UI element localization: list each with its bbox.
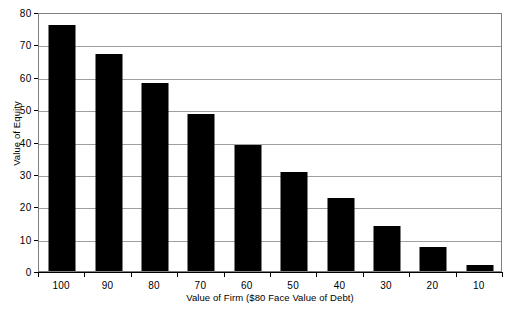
y-tick-label: 30 bbox=[20, 169, 32, 180]
x-tick-mark bbox=[224, 272, 225, 277]
x-tick-label: 80 bbox=[148, 280, 160, 291]
bar bbox=[95, 54, 122, 271]
x-tick-mark bbox=[363, 272, 364, 277]
x-tick-label: 60 bbox=[241, 280, 253, 291]
bar bbox=[49, 25, 76, 271]
y-tick-label: 10 bbox=[20, 234, 32, 245]
y-axis-tick-labels: 01020304050607080 bbox=[0, 0, 38, 315]
bar bbox=[327, 198, 354, 271]
x-tick-mark bbox=[84, 272, 85, 277]
x-axis-title: Value of Firm ($80 Face Value of Debt) bbox=[38, 292, 502, 303]
x-tick-mark bbox=[131, 272, 132, 277]
bar-chart: Value of Equity 01020304050607080 100908… bbox=[0, 0, 512, 315]
bar bbox=[281, 172, 308, 271]
bar bbox=[141, 83, 168, 271]
y-tick-label: 20 bbox=[20, 202, 32, 213]
y-tick-label: 40 bbox=[20, 137, 32, 148]
y-tick-label: 50 bbox=[20, 105, 32, 116]
x-tick-label: 90 bbox=[102, 280, 114, 291]
x-tick-label: 70 bbox=[195, 280, 207, 291]
x-tick-label: 100 bbox=[52, 280, 70, 291]
bar-slot bbox=[225, 14, 271, 271]
x-tick-label: 40 bbox=[334, 280, 346, 291]
bar-slot bbox=[457, 14, 503, 271]
x-tick-mark bbox=[38, 272, 39, 277]
x-tick-mark bbox=[270, 272, 271, 277]
y-tick-label: 80 bbox=[20, 8, 32, 19]
x-tick-mark bbox=[316, 272, 317, 277]
x-tick-label: 30 bbox=[380, 280, 392, 291]
x-tick-mark bbox=[456, 272, 457, 277]
bar-slot bbox=[364, 14, 410, 271]
x-tick-mark bbox=[409, 272, 410, 277]
x-tick-label: 10 bbox=[473, 280, 485, 291]
plot-area bbox=[38, 13, 502, 272]
bar-slot bbox=[178, 14, 224, 271]
bar-slot bbox=[132, 14, 178, 271]
bar-slot bbox=[317, 14, 363, 271]
bar-slot bbox=[271, 14, 317, 271]
y-tick-label: 0 bbox=[26, 267, 32, 278]
x-tick-label: 20 bbox=[427, 280, 439, 291]
bar bbox=[188, 114, 215, 271]
bar-slot bbox=[85, 14, 131, 271]
bar bbox=[373, 226, 400, 271]
bars-series bbox=[39, 14, 501, 271]
x-tick-mark bbox=[502, 272, 503, 277]
bar bbox=[234, 145, 261, 271]
bar-slot bbox=[39, 14, 85, 271]
y-tick-label: 70 bbox=[20, 40, 32, 51]
bar bbox=[466, 265, 493, 271]
bar-slot bbox=[410, 14, 456, 271]
bar bbox=[420, 247, 447, 271]
x-tick-label: 50 bbox=[287, 280, 299, 291]
x-tick-mark bbox=[177, 272, 178, 277]
y-tick-label: 60 bbox=[20, 72, 32, 83]
